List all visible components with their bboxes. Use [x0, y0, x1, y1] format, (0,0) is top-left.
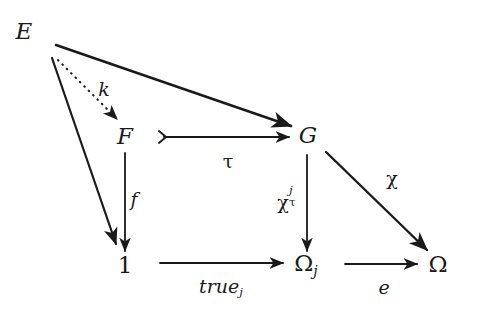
node-Omega: Ω	[428, 253, 447, 276]
omega-glyph: Ω	[294, 250, 313, 276]
node-G: G	[299, 124, 317, 147]
chi-glyph: χ	[277, 191, 289, 213]
edge-label-true-j: truej	[199, 277, 243, 300]
edge-label-tau: τ	[223, 152, 234, 171]
node-E: E	[16, 20, 33, 43]
edge-E-to-G	[56, 45, 291, 126]
true-j-subscript: j	[239, 285, 243, 299]
edge-label-chi: χ	[386, 169, 398, 188]
edge-label-chi-tau-j: χjτ	[277, 190, 300, 212]
edge-label-e: e	[378, 278, 389, 297]
edge-G-to-Omega	[326, 152, 427, 250]
node-F: F	[117, 125, 133, 148]
edge-label-f: f	[130, 190, 137, 209]
chi-subscript-tau: τ	[289, 197, 296, 209]
node-Omega-j: Ωj	[294, 252, 318, 278]
omega-glyph: Ω	[428, 251, 447, 277]
commutative-diagram: E F G 1 Ωj Ω k τ f χjτ truej e χ	[0, 0, 481, 314]
diagram-canvas	[0, 0, 481, 314]
true-text: true	[199, 275, 239, 297]
edge-label-k: k	[98, 80, 110, 99]
omega-j-subscript: j	[313, 263, 317, 279]
chi-sup-sub-stack: jτ	[289, 190, 301, 209]
node-one: 1	[118, 254, 133, 277]
